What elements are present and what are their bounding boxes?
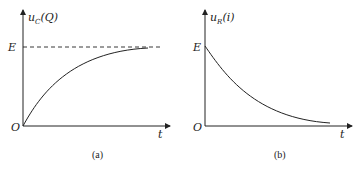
level-label-b: E bbox=[192, 41, 201, 54]
caption-a: (a) bbox=[92, 149, 103, 161]
panel-a: uC(Q) E O t (a) bbox=[7, 10, 170, 161]
origin-label-b: O bbox=[193, 121, 202, 134]
y-axis-label-a: uC(Q) bbox=[28, 11, 58, 26]
caption-b: (b) bbox=[274, 149, 286, 161]
y-axis-label-b: uR(i) bbox=[210, 11, 234, 26]
charging-curve bbox=[23, 48, 148, 126]
x-axis-label-b: t bbox=[340, 128, 345, 141]
decay-curve bbox=[205, 46, 330, 123]
x-axis-label-a: t bbox=[158, 128, 163, 141]
origin-label-a: O bbox=[11, 121, 20, 134]
level-label-a: E bbox=[7, 41, 16, 54]
panel-b: uR(i) E O t (b) bbox=[192, 10, 352, 161]
figure-canvas: uC(Q) E O t (a) uR(i) E O t (b) bbox=[0, 0, 361, 173]
